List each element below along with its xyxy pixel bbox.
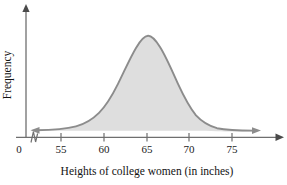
x-axis-title: Heights of college women (in inches) xyxy=(61,165,234,178)
y-axis-title: Frequency xyxy=(1,50,14,99)
x-tick-label-75: 75 xyxy=(227,143,239,155)
x-tick-label-65: 65 xyxy=(142,143,154,155)
chart-canvas: 0 55 60 65 70 75 Heights of college wome… xyxy=(0,0,287,185)
x-tick-label-60: 60 xyxy=(99,143,111,155)
frequency-distribution-chart: 0 55 60 65 70 75 Heights of college wome… xyxy=(0,0,287,185)
x-tick-label-70: 70 xyxy=(184,143,196,155)
x-tick-label-55: 55 xyxy=(56,143,68,155)
origin-label: 0 xyxy=(16,143,22,155)
